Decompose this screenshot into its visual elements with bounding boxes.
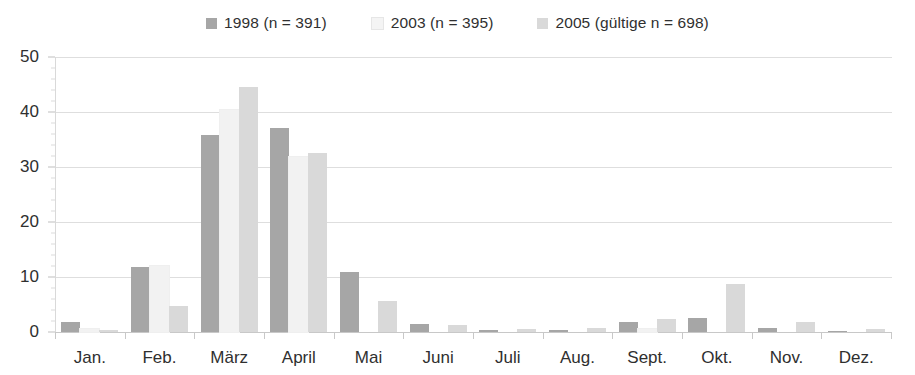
bar-group-dez — [821, 57, 891, 332]
bar-2005-feb — [169, 306, 188, 332]
bar-group-mai — [334, 57, 404, 332]
bar-1998-märz — [201, 135, 220, 332]
bar-group-sept — [612, 57, 682, 332]
x-tick-label-sept: Sept. — [627, 348, 667, 368]
x-tick-mark — [473, 332, 474, 339]
bars-layer — [55, 57, 891, 332]
bar-1998-juni — [410, 324, 429, 332]
chart-legend: 1998 (n = 391) 2003 (n = 395) 2005 (gült… — [0, 8, 915, 38]
bar-2005-nov — [796, 322, 815, 332]
y-tick-mark — [48, 112, 55, 113]
legend-swatch-2005 — [537, 18, 548, 29]
bar-2003-märz — [220, 110, 239, 332]
x-tick-mark — [612, 332, 613, 339]
y-tick-label: 30 — [20, 157, 39, 177]
bar-group-jan — [55, 57, 125, 332]
bar-group-märz — [194, 57, 264, 332]
bar-group-april — [264, 57, 334, 332]
x-tick-label-okt: Okt. — [701, 348, 732, 368]
bar-group-feb — [125, 57, 195, 332]
x-tick-mark — [403, 332, 404, 339]
y-tick-mark — [48, 222, 55, 223]
x-tick-label-juli: Juli — [495, 348, 521, 368]
x-tick-mark — [543, 332, 544, 339]
y-tick-mark — [48, 332, 55, 333]
legend-label-2005: 2005 (gültige n = 698) — [555, 14, 708, 32]
bar-group-aug — [543, 57, 613, 332]
bar-2005-okt — [726, 284, 745, 332]
legend-label-1998: 1998 (n = 391) — [224, 14, 327, 32]
x-tick-label-april: April — [282, 348, 316, 368]
x-tick-mark — [334, 332, 335, 339]
legend-entry-2005: 2005 (gültige n = 698) — [537, 14, 708, 32]
y-tick-label: 0 — [30, 322, 39, 342]
bar-2003-april — [289, 157, 308, 332]
bar-1998-jan — [61, 322, 80, 332]
y-tick-label: 40 — [20, 102, 39, 122]
legend-entry-1998: 1998 (n = 391) — [206, 14, 327, 32]
y-tick-label: 10 — [20, 267, 39, 287]
x-tick-label-feb: Feb. — [142, 348, 176, 368]
x-tick-label-mai: Mai — [355, 348, 382, 368]
x-axis: Jan.Feb.MärzAprilMaiJuniJuliAug.Sept.Okt… — [55, 332, 891, 375]
bar-1998-mai — [340, 272, 359, 333]
x-tick-mark — [194, 332, 195, 339]
bar-1998-april — [270, 128, 289, 332]
bar-group-juni — [403, 57, 473, 332]
y-tick-mark — [48, 167, 55, 168]
x-tick-mark — [821, 332, 822, 339]
bar-1998-okt — [688, 318, 707, 332]
y-tick-label: 50 — [20, 47, 39, 67]
legend-swatch-1998 — [206, 18, 217, 29]
x-tick-label-nov: Nov. — [770, 348, 804, 368]
bar-2005-juni — [448, 325, 467, 332]
x-tick-label-märz: März — [210, 348, 248, 368]
bar-2005-april — [308, 153, 327, 332]
x-tick-mark — [125, 332, 126, 339]
y-tick-mark — [48, 57, 55, 58]
x-tick-mark — [55, 332, 56, 339]
y-axis: 01020304050 — [0, 57, 55, 332]
x-tick-mark — [891, 332, 892, 339]
y-tick-label: 20 — [20, 212, 39, 232]
x-tick-mark — [682, 332, 683, 339]
legend-label-2003: 2003 (n = 395) — [391, 14, 494, 32]
x-tick-mark — [752, 332, 753, 339]
x-tick-label-aug: Aug. — [560, 348, 595, 368]
x-tick-mark — [264, 332, 265, 339]
legend-entry-2003: 2003 (n = 395) — [371, 14, 494, 32]
x-tick-label-juni: Juni — [423, 348, 454, 368]
bar-2005-sept — [657, 319, 676, 332]
y-tick-mark — [48, 277, 55, 278]
bar-group-juli — [473, 57, 543, 332]
bar-1998-feb — [131, 267, 150, 332]
bar-2005-mai — [378, 301, 397, 332]
bar-1998-sept — [619, 322, 638, 332]
legend-swatch-2003 — [371, 17, 384, 30]
bar-group-nov — [752, 57, 822, 332]
bar-2005-märz — [239, 87, 258, 332]
bar-group-okt — [682, 57, 752, 332]
x-tick-label-jan: Jan. — [74, 348, 106, 368]
bar-chart: 1998 (n = 391) 2003 (n = 395) 2005 (gült… — [0, 0, 915, 375]
x-tick-label-dez: Dez. — [839, 348, 874, 368]
bar-2003-feb — [150, 266, 169, 332]
